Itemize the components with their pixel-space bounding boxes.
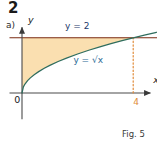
graph-figure: y = 2 y = √x 0 x y 4	[0, 0, 157, 146]
x-axis-label: x	[152, 74, 157, 85]
curve-label: y = √x	[73, 55, 103, 65]
figure-caption: Fig. 5	[122, 130, 145, 139]
y-axis-label: y	[27, 14, 34, 25]
x-intercept-tick-label: 4	[133, 97, 139, 107]
shaded-area-region	[22, 38, 133, 93]
figure-page: 2 a) y = 2 y = √x 0 x y 4 Fig. 5	[0, 0, 157, 146]
horizontal-line-label: y = 2	[65, 21, 89, 31]
origin-label: 0	[14, 94, 20, 105]
